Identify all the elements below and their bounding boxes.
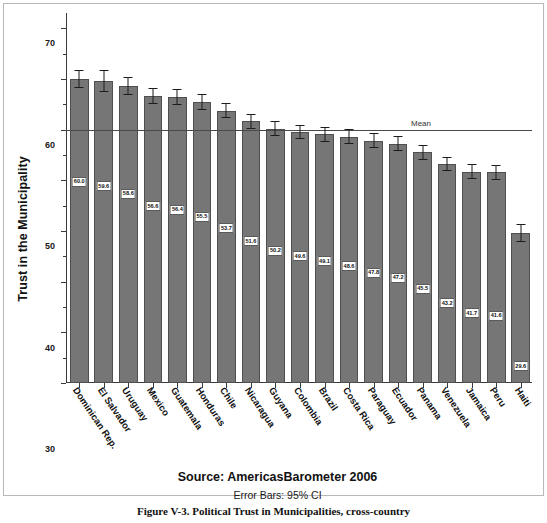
error-bar xyxy=(226,103,227,118)
bar-value-label: 47.2 xyxy=(391,273,406,283)
figure-caption: Figure V-3. Political Trust in Municipal… xyxy=(0,505,547,523)
bar-group[interactable]: 47.2 xyxy=(386,13,411,383)
error-bar xyxy=(103,70,104,92)
bar-value-label: 43.2 xyxy=(440,298,455,308)
y-tick-minor-35 xyxy=(63,206,66,207)
bar-group[interactable]: 41.7 xyxy=(459,13,484,383)
bar[interactable] xyxy=(364,141,383,383)
bar-value-label: 48.6 xyxy=(342,261,357,271)
bar[interactable] xyxy=(266,129,285,383)
bar-value-label: 60.0 xyxy=(72,177,87,187)
error-bar xyxy=(373,133,374,148)
bar-group[interactable]: 49.1 xyxy=(312,13,337,383)
x-category-label: Chile xyxy=(218,385,240,410)
y-tick-30: 30 xyxy=(61,231,66,232)
y-tick-label-50: 50 xyxy=(45,241,55,251)
y-tick-20: 20 xyxy=(61,282,66,283)
y-tick-minor-5 xyxy=(63,358,66,359)
error-bar xyxy=(201,94,202,110)
bar-group[interactable]: 43.2 xyxy=(435,13,460,383)
error-bar xyxy=(275,121,276,135)
y-tick-minor-15 xyxy=(63,307,66,308)
bar-group[interactable]: 45.5 xyxy=(410,13,435,383)
figure-page: Trust in the Municipality 01020304050607… xyxy=(0,0,547,523)
error-bar xyxy=(324,127,325,142)
y-tick-70: 70 xyxy=(61,28,66,29)
y-tick-label-60: 60 xyxy=(45,140,55,150)
error-bar xyxy=(152,88,153,104)
x-category-label: Brazil xyxy=(316,385,340,413)
bar[interactable] xyxy=(168,97,187,383)
bar-group[interactable]: 47.8 xyxy=(361,13,386,383)
bar-value-label: 49.6 xyxy=(293,251,308,261)
bar-series: 60.059.658.656.656.455.553.751.650.249.6… xyxy=(67,13,532,383)
bar[interactable] xyxy=(144,96,163,383)
bar[interactable] xyxy=(242,121,261,383)
bar-value-label: 56.6 xyxy=(145,201,160,211)
bar-group[interactable]: 50.2 xyxy=(263,13,288,383)
bar[interactable] xyxy=(217,111,236,383)
x-category-label: Mexico xyxy=(145,385,172,418)
y-axis-title: Trust in the Municipality xyxy=(14,104,32,354)
chart-footer: Source: AmericasBarometer 2006 Error Bar… xyxy=(8,470,547,501)
bar[interactable] xyxy=(340,137,359,383)
y-axis-title-text: Trust in the Municipality xyxy=(16,156,30,302)
bar-group[interactable]: 48.6 xyxy=(337,13,362,383)
y-tick-minor-45 xyxy=(63,155,66,156)
x-category-label: Haiti xyxy=(513,385,534,408)
bar-group[interactable]: 58.6 xyxy=(116,13,141,383)
error-bar xyxy=(177,89,178,105)
bar-value-label: 50.2 xyxy=(268,246,283,256)
error-bar xyxy=(79,70,80,88)
figure-frame: Trust in the Municipality 01020304050607… xyxy=(3,3,544,496)
source-label: Source: AmericasBarometer 2006 xyxy=(8,470,547,484)
bar[interactable] xyxy=(193,102,212,383)
bar-group[interactable]: 56.4 xyxy=(165,13,190,383)
bar-value-label: 51.6 xyxy=(243,236,258,246)
bar[interactable] xyxy=(487,172,506,383)
x-axis-category-labels: Dominican Rep.El SalvadorUruguayMexicoGu… xyxy=(66,385,532,470)
bar-value-label: 58.6 xyxy=(121,189,136,199)
bar-value-label: 41.6 xyxy=(489,311,504,321)
error-bar xyxy=(471,164,472,179)
error-bar xyxy=(299,125,300,139)
bar[interactable] xyxy=(462,172,481,383)
y-tick-60: 60 xyxy=(61,79,66,80)
bar-group[interactable]: 51.6 xyxy=(239,13,264,383)
bar-value-label: 47.8 xyxy=(366,268,381,278)
y-tick-label-40: 40 xyxy=(45,343,55,353)
bar-group[interactable]: 59.6 xyxy=(92,13,117,383)
bar-group[interactable]: 56.6 xyxy=(141,13,166,383)
y-tick-minor-25 xyxy=(63,256,66,257)
bar-group[interactable]: 41.6 xyxy=(484,13,509,383)
bar-group[interactable]: 53.7 xyxy=(214,13,239,383)
bar-group[interactable]: 60.0 xyxy=(67,13,92,383)
y-tick-label-30: 30 xyxy=(45,444,55,454)
bar-group[interactable]: 29.6 xyxy=(508,13,533,383)
error-bars-label: Error Bars: 95% CI xyxy=(8,489,547,501)
bar-value-label: 41.7 xyxy=(464,308,479,318)
bar-group[interactable]: 55.5 xyxy=(190,13,215,383)
bar-value-label: 29.6 xyxy=(513,361,528,371)
error-bar xyxy=(349,129,350,144)
bar-value-label: 53.7 xyxy=(219,223,234,233)
bar[interactable] xyxy=(389,144,408,383)
bar[interactable] xyxy=(413,152,432,383)
bar[interactable] xyxy=(94,81,113,383)
bar[interactable] xyxy=(70,79,89,383)
bar-group[interactable]: 49.6 xyxy=(288,13,313,383)
error-bar xyxy=(447,157,448,171)
bar[interactable] xyxy=(438,164,457,383)
plot-area: 010203040506070 Mean 60.059.658.656.656.… xyxy=(66,13,532,383)
error-bar xyxy=(520,224,521,242)
error-bar xyxy=(250,114,251,129)
y-tick-40: 40 xyxy=(61,180,66,181)
error-bar xyxy=(496,165,497,180)
bar-value-label: 59.6 xyxy=(96,181,111,191)
bar-value-label: 49.1 xyxy=(317,256,332,266)
x-category-label: Peru xyxy=(488,385,509,409)
y-tick-0: 0 xyxy=(61,383,66,384)
mean-line-label: Mean xyxy=(411,119,431,128)
error-bar xyxy=(128,77,129,95)
bar-value-label: 45.5 xyxy=(415,284,430,294)
